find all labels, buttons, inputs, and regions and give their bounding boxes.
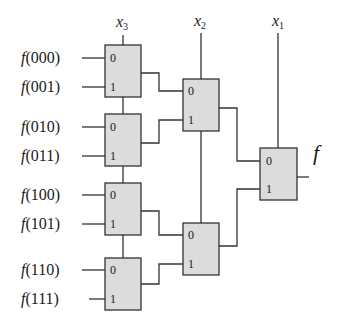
input-label-100: f(100) — [21, 186, 60, 204]
input-label-000: f(000) — [21, 49, 60, 67]
input-label-010: f(010) — [21, 118, 60, 136]
x3-label: x3 — [115, 13, 128, 32]
port-0: 0 — [266, 154, 272, 168]
wire-m3-m6 — [141, 211, 183, 235]
wire-m2-m5 — [141, 120, 183, 143]
port-1: 1 — [110, 292, 116, 306]
port-1: 1 — [266, 182, 272, 196]
port-0: 0 — [110, 263, 116, 277]
output-label: f — [313, 140, 322, 165]
wire-m5-m7 — [219, 108, 260, 161]
port-0: 0 — [188, 84, 194, 98]
port-1: 1 — [188, 257, 194, 271]
port-0: 0 — [110, 51, 116, 65]
input-label-111: f(111) — [21, 290, 59, 308]
port-0: 0 — [188, 228, 194, 242]
mux-tree-diagram: 0 1 0 1 0 1 0 1 0 1 0 1 0 1 x3 x2 x1 f(0… — [0, 0, 343, 327]
port-0: 0 — [110, 188, 116, 202]
x1-label: x1 — [271, 12, 284, 31]
port-1: 1 — [110, 80, 116, 94]
port-1: 1 — [188, 113, 194, 127]
wire-m1-m5 — [141, 73, 183, 91]
wire-m4-m6 — [141, 264, 183, 284]
port-0: 0 — [110, 120, 116, 134]
port-1: 1 — [110, 149, 116, 163]
input-label-001: f(001) — [21, 78, 60, 96]
x2-label: x2 — [193, 12, 206, 31]
input-label-110: f(110) — [21, 261, 60, 279]
port-1: 1 — [110, 217, 116, 231]
input-label-011: f(011) — [21, 147, 60, 165]
input-label-101: f(101) — [21, 215, 60, 233]
wire-m6-m7 — [219, 189, 260, 246]
